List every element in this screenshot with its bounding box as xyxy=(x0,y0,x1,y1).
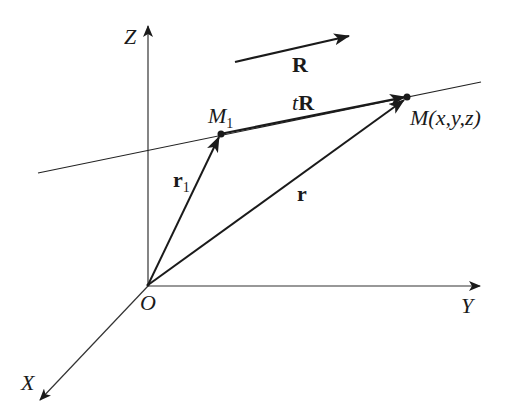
y-axis-label: Y xyxy=(461,293,476,318)
origin-label: O xyxy=(140,290,156,315)
r1-main: r xyxy=(173,167,183,192)
point-M1 xyxy=(218,131,225,138)
vector-R-label: R xyxy=(292,52,309,77)
x-axis-label: X xyxy=(20,370,36,395)
tR-vector: R xyxy=(298,90,315,115)
x-axis xyxy=(40,286,148,400)
vector-r-label: r xyxy=(297,181,307,206)
m1-main: M xyxy=(207,103,228,128)
z-axis-label: Z xyxy=(124,24,137,49)
vector-r1 xyxy=(148,137,219,285)
r1-subscript: 1 xyxy=(183,180,190,195)
point-M1-label: M1 xyxy=(207,103,233,131)
vector-tR-label: tR xyxy=(292,90,315,115)
point-M xyxy=(404,94,411,101)
vector-line-diagram: Z Y X O R tR r1 r M1 M(x,y,z) xyxy=(0,0,527,415)
vector-r1-label: r1 xyxy=(173,167,190,195)
m1-subscript: 1 xyxy=(226,116,233,131)
diagram-canvas: Z Y X O R tR r1 r M1 M(x,y,z) xyxy=(0,0,527,415)
point-M-label: M(x,y,z) xyxy=(409,105,481,130)
point-O xyxy=(146,283,149,286)
